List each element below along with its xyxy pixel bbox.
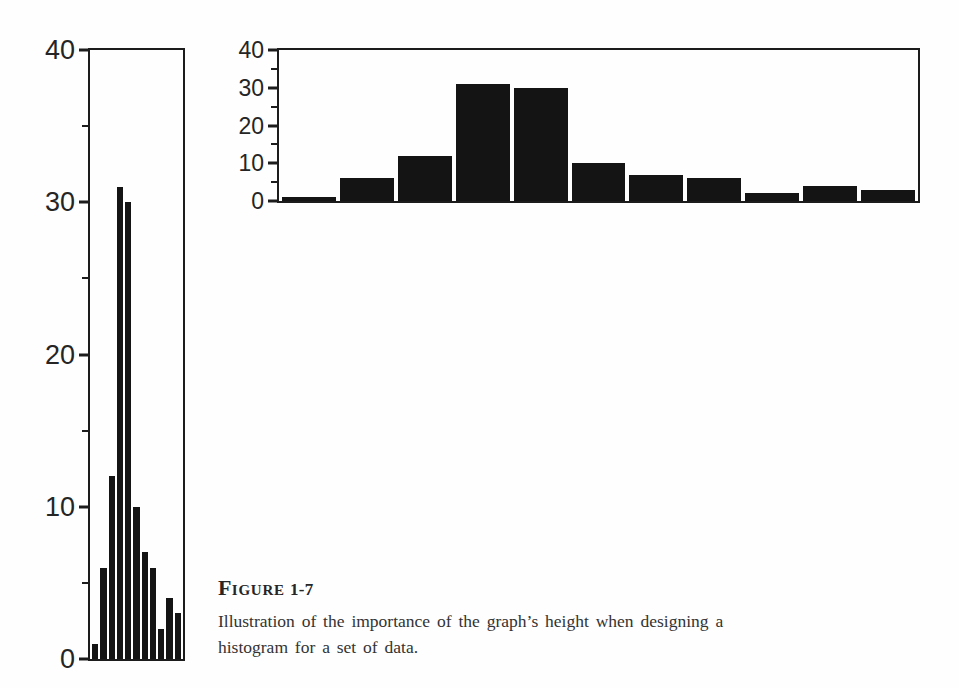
histogram-bar: [92, 644, 98, 659]
histogram-bar: [117, 187, 123, 659]
y-tick-mark-major: [268, 162, 277, 165]
histogram-bar: [514, 88, 568, 201]
y-tick-mark-major: [268, 86, 277, 89]
y-tick-mark-major: [268, 200, 277, 203]
histogram-bar: [745, 193, 799, 201]
y-tick-label: 0: [60, 646, 75, 673]
y-tick-label: 30: [238, 76, 264, 99]
caption-line-1: Illustration of the importance of the gr…: [218, 611, 723, 631]
wide-histogram-y-axis: 010203040: [225, 50, 277, 201]
histogram-bar: [133, 507, 139, 659]
figure-label: FIGURE1-7: [218, 577, 758, 601]
y-tick-label: 10: [238, 152, 264, 175]
y-tick-mark-major: [79, 505, 88, 508]
tall-histogram-plot-area: [88, 48, 185, 661]
y-tick-mark-major: [268, 124, 277, 127]
histogram-bar: [456, 84, 510, 201]
y-tick-label: 40: [238, 39, 264, 62]
histogram-bar: [150, 568, 156, 659]
histogram-bar: [125, 202, 131, 659]
histogram-bar: [687, 178, 741, 201]
y-tick-label: 30: [45, 189, 75, 216]
y-tick-mark-major: [79, 201, 88, 204]
tall-histogram-y-axis: 010203040: [30, 50, 88, 659]
histogram-bar: [340, 178, 394, 201]
y-tick-mark-major: [79, 353, 88, 356]
figure-caption: FIGURE1-7 Illustration of the importance…: [218, 577, 758, 660]
wide-histogram-plot-area: [277, 48, 920, 203]
figure-label-number: 1-7: [290, 580, 314, 599]
histogram-bar: [158, 629, 164, 659]
histogram-bar: [861, 190, 915, 201]
histogram-bar: [142, 552, 148, 659]
histogram-bar: [572, 163, 626, 201]
y-tick-label: 40: [45, 37, 75, 64]
wide-histogram: 010203040: [225, 48, 920, 203]
y-tick-label: 20: [45, 341, 75, 368]
caption-line-2: histogram for a set of data.: [218, 637, 418, 657]
y-tick-label: 0: [251, 190, 264, 213]
y-tick-mark-major: [79, 658, 88, 661]
y-tick-label: 10: [45, 493, 75, 520]
figure-label-initial: F: [218, 575, 232, 600]
figure-caption-text: Illustration of the importance of the gr…: [218, 608, 758, 660]
tall-histogram: 010203040: [30, 48, 185, 661]
histogram-bar: [803, 186, 857, 201]
y-tick-mark-major: [79, 49, 88, 52]
y-tick-label: 20: [238, 114, 264, 137]
histogram-bar: [282, 197, 336, 201]
histogram-bar: [175, 613, 181, 659]
y-tick-mark-major: [268, 49, 277, 52]
histogram-bar: [100, 568, 106, 659]
histogram-bar: [109, 476, 115, 659]
histogram-bar: [398, 156, 452, 201]
histogram-bar: [629, 175, 683, 201]
histogram-bar: [166, 598, 172, 659]
figure-label-word: IGURE: [232, 582, 285, 598]
